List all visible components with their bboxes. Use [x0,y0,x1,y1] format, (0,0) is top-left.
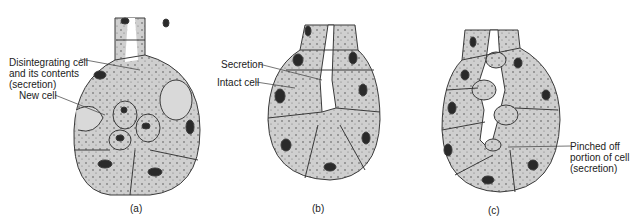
label-line: Pinched off [570,141,629,152]
panel-a-gland [55,18,200,195]
label-line: and its contents [9,68,88,79]
caption-a: (a) [130,203,142,214]
caption-c: (c) [488,205,500,216]
label-line: (secretion) [570,163,629,174]
label-line: Intact cell [217,77,259,88]
label-secretion: Secretion [221,59,263,70]
label-line: Disintegrating cell [9,57,88,68]
label-disintegrating-cell: Disintegrating cell and its contents (se… [9,57,88,90]
caption-b: (b) [312,203,324,214]
label-line: portion of cell [570,152,629,163]
panel-c-gland [442,30,571,192]
label-intact-cell: Intact cell [217,77,259,88]
panel-b-gland [256,25,380,180]
label-line: (secretion) [9,79,88,90]
label-line: New cell [19,90,57,101]
label-line: Secretion [221,59,263,70]
gland-diagram [0,0,631,219]
label-new-cell: New cell [19,90,57,101]
label-pinched-off-portion: Pinched off portion of cell (secretion) [570,141,629,174]
